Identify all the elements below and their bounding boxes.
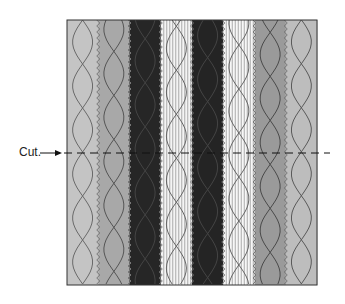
cut-label: Cut.	[19, 145, 41, 159]
cut-arrow-icon	[55, 150, 62, 156]
strip-diagram-canvas	[0, 0, 345, 304]
